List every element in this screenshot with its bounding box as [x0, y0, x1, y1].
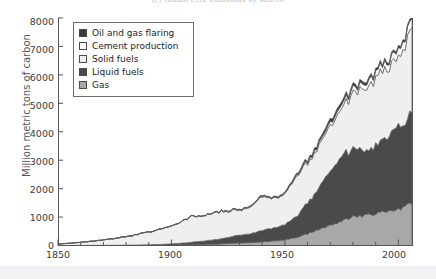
- legend-item-liquid-fuels[interactable]: Liquid fuels: [79, 66, 188, 78]
- legend-swatch-oil-and-gas-flaring-icon: [79, 29, 87, 37]
- legend-swatch-gas-icon: [79, 81, 87, 89]
- legend-item-oil-and-gas-flaring[interactable]: Oil and gas flaring: [79, 27, 188, 39]
- figure-panel: (c) Global CO2 emissions by source Milli…: [0, 0, 436, 279]
- legend-swatch-liquid-fuels-icon: [79, 68, 87, 76]
- legend-item-gas[interactable]: Gas: [79, 79, 188, 91]
- stacked-area-plot: [0, 0, 436, 279]
- legend-label-oil-and-gas-flaring: Oil and gas flaring: [92, 28, 174, 38]
- legend-swatch-cement-production-icon: [79, 42, 87, 50]
- legend-label-gas: Gas: [92, 80, 109, 90]
- legend-item-cement-production[interactable]: Cement production: [79, 40, 188, 52]
- legend: Oil and gas flaring Cement production So…: [73, 22, 194, 97]
- legend-label-cement-production: Cement production: [92, 41, 179, 51]
- legend-swatch-solid-fuels-icon: [79, 55, 87, 63]
- legend-item-solid-fuels[interactable]: Solid fuels: [79, 53, 188, 65]
- legend-label-solid-fuels: Solid fuels: [92, 54, 138, 64]
- legend-label-liquid-fuels: Liquid fuels: [92, 67, 144, 77]
